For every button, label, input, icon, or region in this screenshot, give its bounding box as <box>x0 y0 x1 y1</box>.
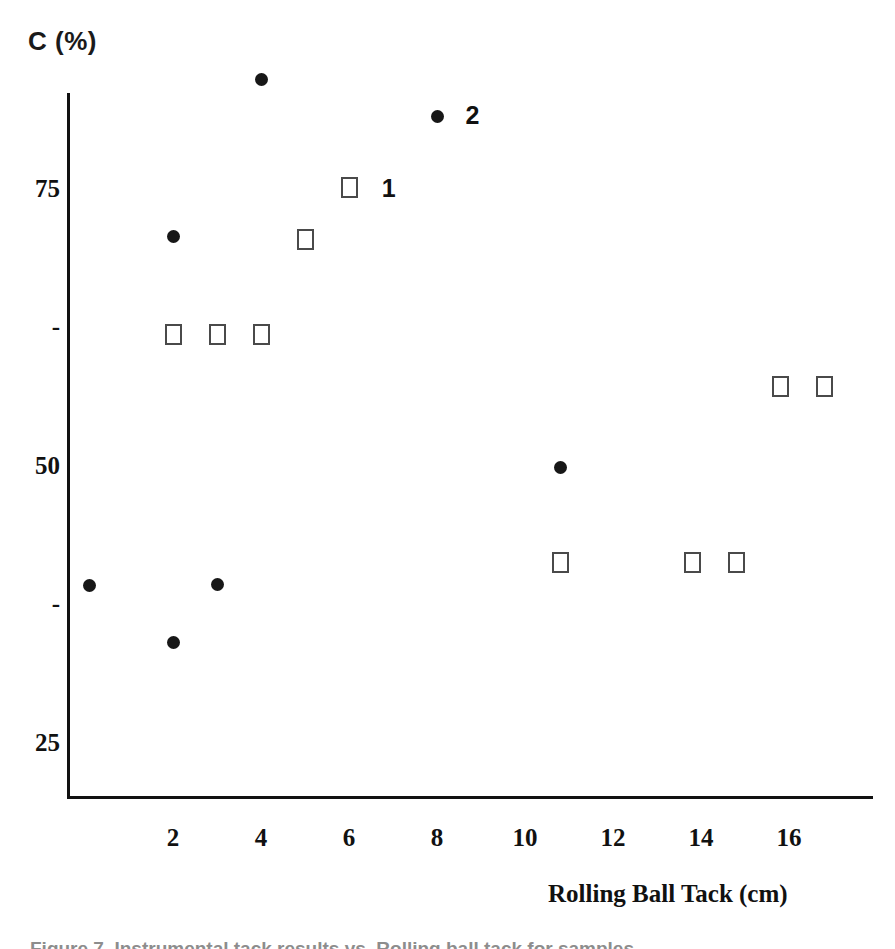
y-tick-label: - <box>14 591 60 616</box>
data-point-series-2 <box>554 461 567 474</box>
x-axis-line <box>67 796 873 799</box>
x-tick-label-16: 16 <box>769 824 809 852</box>
x-tick-label-6: 6 <box>329 824 369 852</box>
y-tick-minor-1: - <box>8 314 60 344</box>
y-tick-25: 25 <box>8 729 60 759</box>
y-tick-minor-3: - <box>8 591 60 621</box>
data-point-series-1 <box>684 552 701 573</box>
data-point-series-1 <box>209 324 226 345</box>
y-tick-label: 25 <box>14 729 60 757</box>
x-tick-label-14: 14 <box>681 824 721 852</box>
data-point-series-2 <box>255 73 268 86</box>
data-point-series-2 <box>431 110 444 123</box>
figure-scatter-plot: C (%) 75-50-2524681012141612 Rolling Bal… <box>0 0 895 949</box>
x-tick-label-12: 12 <box>593 824 633 852</box>
data-point-series-1 <box>772 376 789 397</box>
y-axis-title: C (%) <box>28 26 97 57</box>
data-point-series-2 <box>167 636 180 649</box>
x-tick-label-2: 2 <box>153 824 193 852</box>
data-point-series-1 <box>728 552 745 573</box>
y-tick-75: 75 <box>8 175 60 205</box>
figure-caption: Figure 7. Instrumental tack results vs. … <box>30 938 870 949</box>
y-tick-label: 50 <box>14 452 60 480</box>
data-point-series-1 <box>552 552 569 573</box>
x-tick-label-10: 10 <box>505 824 545 852</box>
data-point-series-1 <box>253 324 270 345</box>
data-point-series-1 <box>341 177 358 198</box>
x-tick-label-4: 4 <box>241 824 281 852</box>
y-tick-label: - <box>14 314 60 339</box>
data-point-series-2 <box>211 578 224 591</box>
x-tick-label-8: 8 <box>417 824 457 852</box>
data-point-series-1 <box>165 324 182 345</box>
data-point-series-2 <box>83 579 96 592</box>
y-tick-50: 50 <box>8 452 60 482</box>
y-tick-label: 75 <box>14 175 60 203</box>
data-point-series-1 <box>816 376 833 397</box>
data-point-series-1 <box>297 229 314 250</box>
data-point-series-2 <box>167 230 180 243</box>
x-axis-title: Rolling Ball Tack (cm) <box>548 880 788 908</box>
series-label-2: 2 <box>465 101 479 130</box>
y-axis-line <box>67 93 70 799</box>
series-label-1: 1 <box>382 174 396 203</box>
